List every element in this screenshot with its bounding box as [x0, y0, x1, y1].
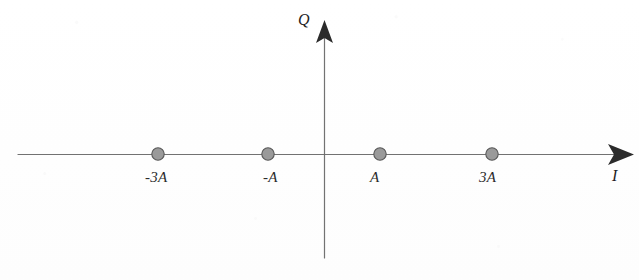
- constellation-point: [486, 148, 498, 160]
- constellation-plot: [0, 0, 639, 280]
- tick-label-minus-3a: -3A: [145, 170, 167, 185]
- q-axis-label: Q: [298, 12, 310, 28]
- constellation-point: [152, 148, 164, 160]
- tick-label-minus-a: -A: [263, 170, 278, 185]
- i-axis-label: I: [612, 168, 617, 184]
- constellation-figure: -3A -A A 3A Q I: [0, 0, 639, 280]
- tick-label-3a: 3A: [479, 170, 496, 185]
- constellation-point: [262, 148, 274, 160]
- constellation-point: [374, 148, 386, 160]
- tick-label-a: A: [370, 170, 379, 185]
